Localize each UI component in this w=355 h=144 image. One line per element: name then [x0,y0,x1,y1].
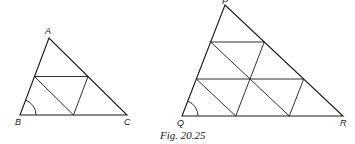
triangle-pqr: P Q R [177,0,347,128]
figure-caption: Fig. 20.25 [159,129,206,141]
triangle-pqr-outline [182,5,343,116]
midline-ab-bc [35,77,74,116]
vertex-label-c: C [124,117,131,127]
vertex-label-p: P [222,0,228,6]
similar-triangles-figure: A B C P Q R Fig. 20.25 [0,0,355,144]
slant-line-2 [289,79,303,116]
vertex-label-a: A [44,26,51,36]
vertex-label-q: Q [177,118,184,128]
vertex-label-r: R [340,118,347,128]
diagonal-line-2 [196,79,235,116]
vertex-label-b: B [15,117,21,127]
midline-ac-bc [74,77,89,116]
angle-b-arc [26,100,36,115]
angle-q-arc [188,101,198,116]
triangle-abc: A B C [15,26,131,127]
